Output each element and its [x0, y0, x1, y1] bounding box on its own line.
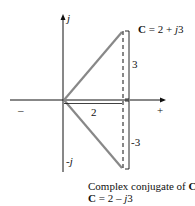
c-num: 3: [178, 23, 184, 35]
conjugate-label: C = 2 – j3: [88, 192, 133, 204]
conjugate-caption: Complex conjugate of C: [88, 180, 195, 192]
neg-imag-axis-label: -j: [66, 155, 73, 167]
vector-c: [64, 32, 122, 100]
real-pos-label: +: [157, 104, 163, 116]
conj-eq: = 2 –: [96, 192, 124, 204]
conj-num: 3: [127, 192, 133, 204]
complex-conjugate-diagram: j -j – + 2 3 -3 C = 2 + j3 Complex conju…: [0, 0, 195, 206]
real-neg-label: –: [18, 104, 24, 116]
real-part-label: 2: [91, 106, 97, 118]
c-eq: = 2 +: [146, 23, 175, 35]
caption-c: C: [189, 180, 195, 192]
c-symbol: C: [138, 23, 146, 35]
vector-c-label: C = 2 + j3: [138, 23, 183, 35]
caption-text: Complex conjugate of: [88, 180, 189, 192]
imag-neg-value-label: -3: [131, 136, 140, 148]
imag-pos-bracket: [125, 31, 129, 99]
imag-neg-bracket: [125, 101, 129, 169]
imag-pos-value-label: 3: [132, 58, 138, 70]
imaginary-axis-arrow-icon: [61, 14, 66, 20]
real-axis-arrow-icon: [160, 98, 166, 103]
conj-c-symbol: C: [88, 192, 96, 204]
imag-axis-label: j: [67, 12, 70, 24]
